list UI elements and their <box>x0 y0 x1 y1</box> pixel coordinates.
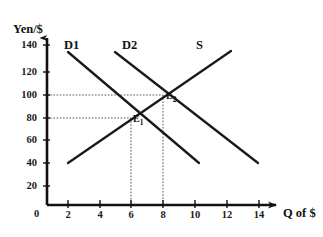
equilibrium-label-e2: E2 <box>166 90 176 104</box>
supply-demand-chart: Yen/$ Q of $ 140 120 100 80 60 40 20 0 2… <box>0 0 323 237</box>
x-tick-label-6: 6 <box>123 209 139 220</box>
y-tick-label-120: 120 <box>11 66 37 77</box>
equilibrium-e1-subscript: 1 <box>140 118 144 127</box>
equilibrium-e2-subscript: 2 <box>173 95 177 104</box>
y-tick-label-80: 80 <box>11 112 37 123</box>
equilibrium-label-e1: E1 <box>133 113 143 127</box>
supply-curve-s <box>68 51 231 163</box>
y-axis-title: Yen/$ <box>13 22 43 37</box>
equilibrium-e2-letter: E <box>166 90 173 101</box>
x-tick-label-2: 2 <box>60 209 76 220</box>
y-tick-label-20: 20 <box>11 180 37 191</box>
x-axis-title: Q of $ <box>283 206 316 221</box>
x-tick-label-8: 8 <box>155 209 171 220</box>
y-tick-label-40: 40 <box>11 157 37 168</box>
equilibrium-e1-letter: E <box>133 113 140 124</box>
origin-label: 0 <box>34 208 39 219</box>
y-tick-label-100: 100 <box>11 89 37 100</box>
x-tick-label-12: 12 <box>219 209 235 220</box>
y-tick-label-60: 60 <box>11 134 37 145</box>
guide-lines <box>47 95 163 205</box>
x-tick-label-14: 14 <box>251 209 267 220</box>
demand-curve-d2 <box>115 52 258 163</box>
x-tick-label-4: 4 <box>92 209 108 220</box>
curve-label-d2: D2 <box>122 38 137 53</box>
curve-label-d1: D1 <box>64 38 79 53</box>
y-tick-label-140: 140 <box>11 39 37 50</box>
demand-curve-d1 <box>68 52 199 163</box>
curve-label-s: S <box>196 38 203 53</box>
x-tick-label-10: 10 <box>187 209 203 220</box>
chart-canvas <box>0 0 323 237</box>
